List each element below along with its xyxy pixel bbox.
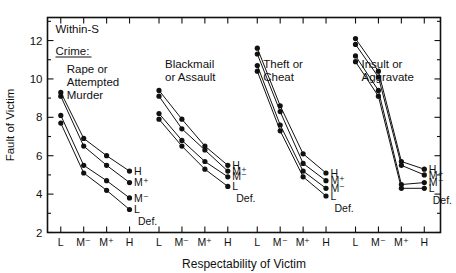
data-point	[81, 170, 86, 175]
data-point	[127, 169, 132, 174]
x-tick-label: M⁺	[197, 236, 212, 248]
x-tick-label: M⁻	[76, 236, 91, 248]
series-label: L	[331, 190, 337, 202]
data-point	[353, 36, 358, 41]
data-point	[323, 186, 328, 191]
data-point	[179, 144, 184, 149]
panel-title: or Assault	[165, 71, 216, 83]
defendant-group-label: Def.	[138, 215, 157, 227]
panel-title: Blackmail	[165, 58, 214, 70]
x-tick-label: M⁻	[175, 236, 190, 248]
data-point	[58, 94, 63, 99]
data-point	[202, 167, 207, 172]
line-chart-figure: 24681012Fault of VictimLM⁻M⁺HLM⁻M⁺HLM⁻M⁺…	[0, 0, 456, 273]
data-point	[422, 186, 427, 191]
series-label: L	[429, 182, 435, 194]
data-point	[301, 161, 306, 166]
panel-title: Aggravate	[362, 71, 414, 83]
data-point	[127, 195, 132, 200]
data-point	[156, 111, 161, 116]
data-point	[376, 88, 381, 93]
data-point	[179, 117, 184, 122]
x-tick-label: H	[126, 236, 134, 248]
x-tick-label: H	[420, 236, 428, 248]
series-line	[61, 115, 130, 197]
defendant-group-label: Def.	[335, 202, 354, 214]
condition-label: Within-S	[56, 23, 100, 35]
series-line	[257, 71, 326, 196]
y-tick-label: 12	[30, 35, 43, 47]
y-tick-label: 8	[36, 111, 42, 123]
data-point	[353, 42, 358, 47]
data-point	[179, 126, 184, 131]
x-tick-label: L	[58, 236, 64, 248]
data-point	[225, 163, 230, 168]
panel-title: Cheat	[263, 71, 294, 83]
series-line	[257, 66, 326, 189]
data-point	[255, 46, 260, 51]
y-tick-label: 10	[30, 73, 43, 85]
figure-container: 24681012Fault of VictimLM⁻M⁺HLM⁻M⁺HLM⁻M⁺…	[0, 0, 456, 273]
series-label: L	[232, 180, 238, 192]
data-point	[81, 163, 86, 168]
data-point	[422, 167, 427, 172]
data-point	[127, 180, 132, 185]
x-tick-label: M⁺	[296, 236, 311, 248]
panel-title: Attempted	[67, 76, 119, 88]
data-point	[179, 138, 184, 143]
data-point	[104, 163, 109, 168]
data-point	[278, 128, 283, 133]
series-line	[61, 96, 130, 182]
panel-title: Theft or	[263, 58, 303, 70]
panel-title: Insult or	[362, 58, 403, 70]
series-line	[159, 119, 228, 186]
series-line	[159, 90, 228, 165]
series-line	[61, 123, 130, 209]
x-tick-label: M⁻	[273, 236, 288, 248]
panel-title: Rape or	[67, 63, 108, 75]
data-point	[156, 94, 161, 99]
x-axis-title: Respectability of Victim	[182, 257, 306, 271]
series-label: L	[134, 203, 140, 215]
defendant-group-label: Def.	[236, 192, 255, 204]
series-line	[159, 114, 228, 177]
data-point	[58, 121, 63, 126]
data-point	[422, 172, 427, 177]
data-point	[255, 63, 260, 68]
data-point	[225, 174, 230, 179]
x-tick-label: L	[353, 236, 359, 248]
x-tick-label: H	[224, 236, 232, 248]
series-line	[159, 96, 228, 171]
data-point	[376, 94, 381, 99]
series-label: H	[134, 165, 142, 177]
x-tick-label: M⁺	[99, 236, 114, 248]
data-point	[58, 113, 63, 118]
x-tick-label: M⁺	[394, 236, 409, 248]
y-tick-label: 2	[36, 227, 42, 239]
data-point	[81, 144, 86, 149]
data-point	[104, 188, 109, 193]
y-tick-label: 6	[36, 150, 42, 162]
x-tick-label: L	[254, 236, 260, 248]
y-tick-label: 4	[36, 188, 43, 200]
data-point	[399, 163, 404, 168]
series-label: M⁻	[134, 192, 149, 204]
data-point	[81, 136, 86, 141]
data-point	[255, 69, 260, 74]
series-label: M⁺	[134, 176, 149, 188]
data-point	[225, 169, 230, 174]
x-tick-label: L	[156, 236, 162, 248]
data-point	[202, 147, 207, 152]
series-line	[61, 92, 130, 171]
data-point	[156, 88, 161, 93]
data-point	[323, 178, 328, 183]
data-point	[323, 193, 328, 198]
data-point	[422, 180, 427, 185]
data-point	[399, 186, 404, 191]
data-point	[255, 51, 260, 56]
legend-heading: Crime:	[56, 45, 90, 57]
defendant-group-label: Def.	[433, 194, 452, 206]
data-point	[353, 59, 358, 64]
data-point	[127, 207, 132, 212]
x-tick-label: H	[322, 236, 330, 248]
